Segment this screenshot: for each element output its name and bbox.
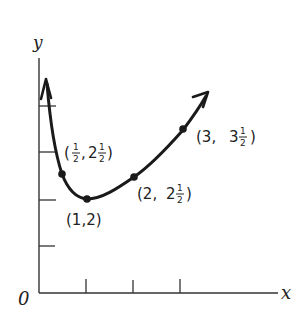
curve-line (47, 84, 206, 199)
label-point-two: (2, 2 1 2 ) (137, 183, 192, 205)
svg-text:(: ( (64, 144, 70, 162)
point-two-two-half (130, 173, 138, 181)
svg-text:2: 2 (166, 185, 176, 203)
svg-text:1: 1 (99, 142, 105, 152)
label-point-three: (3, 3 1 2 ) (196, 126, 256, 148)
svg-text:1: 1 (177, 183, 183, 193)
svg-text:): ) (186, 185, 192, 203)
point-one-two (83, 195, 91, 203)
svg-text:2: 2 (240, 138, 246, 148)
point-half-two-half (58, 170, 66, 178)
svg-text:(2,: (2, (137, 185, 157, 203)
svg-text:1: 1 (73, 142, 79, 152)
y-axis-label: y (32, 32, 43, 52)
x-axis-label: x (281, 282, 291, 303)
svg-text:2: 2 (177, 195, 183, 205)
svg-text:2: 2 (73, 154, 79, 164)
graph-canvas: y x 0 ( 1 2 , 2 1 2 ) (1,2) (2, 2 1 2 ) … (0, 0, 307, 329)
svg-text:(3,: (3, (196, 128, 216, 146)
svg-text:2: 2 (99, 154, 105, 164)
point-three-three-half (179, 125, 187, 133)
svg-text:,: , (81, 144, 86, 162)
label-point-one-two: (1,2) (66, 211, 102, 229)
label-point-half: ( 1 2 , 2 1 2 ) (64, 142, 113, 164)
origin-label: 0 (18, 288, 29, 309)
svg-text:2: 2 (88, 144, 98, 162)
svg-text:3: 3 (229, 128, 239, 146)
y-ticks (39, 106, 56, 246)
svg-text:): ) (250, 128, 256, 146)
svg-text:): ) (107, 144, 113, 162)
svg-text:1: 1 (240, 126, 246, 136)
x-ticks (86, 279, 180, 293)
